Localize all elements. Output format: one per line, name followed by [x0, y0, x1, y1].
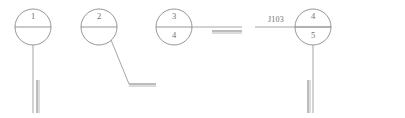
engineering-drawing-canvas: 1 2 3 4 [0, 0, 405, 118]
joint-tag-label: J103 [268, 15, 284, 24]
balloon-3-top-label: 3 [172, 11, 176, 21]
balloon-2-leader-diagonal [111, 40, 129, 84]
balloon-3-bottom-label: 4 [172, 30, 177, 40]
balloon-2-top-label: 2 [97, 11, 101, 21]
balloon-group-3[interactable]: 3 4 [156, 9, 242, 45]
balloon-group-2[interactable]: 2 [81, 9, 156, 86]
balloon-1-top-label: 1 [31, 11, 35, 21]
balloon-group-4[interactable]: J103 4 5 [255, 9, 331, 113]
balloon-group-1[interactable]: 1 [15, 9, 51, 113]
drawing-svg: 1 2 3 4 [0, 0, 405, 118]
balloon-4-bottom-label: 5 [311, 30, 315, 40]
balloon-4-top-label: 4 [311, 11, 316, 21]
